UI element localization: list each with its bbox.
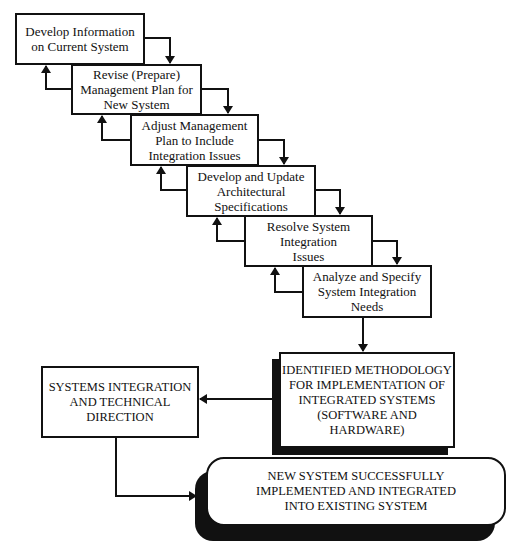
- arrow-step4-to-step5: [316, 190, 340, 214]
- feedback-step5-to-step4: [217, 218, 244, 241]
- outcome-label: NEW SYSTEM SUCCESSFULLY IMPLEMENTED AND …: [256, 469, 456, 514]
- arrow-step1-to-step2: [145, 38, 170, 63]
- step-label: Develop and Update Architectural Specifi…: [198, 169, 305, 214]
- arrow-step3-to-step4: [259, 140, 284, 164]
- outcome-box: NEW SYSTEM SUCCESSFULLY IMPLEMENTED AND …: [206, 457, 506, 526]
- step-adjust-management-plan: Adjust Management Plan to Include Integr…: [130, 114, 259, 166]
- direction-label: SYSTEMS INTEGRATION AND TECHNICAL DIRECT…: [49, 380, 192, 425]
- waterfall-diagram: Develop Information on Current System Re…: [0, 0, 522, 550]
- step-label: Develop Information on Current System: [25, 24, 134, 54]
- step-label: Analyze and Specify System Integration N…: [313, 269, 421, 314]
- feedback-step2-to-step1: [46, 66, 71, 89]
- step-analyze-integration-needs: Analyze and Specify System Integration N…: [302, 265, 432, 318]
- step-label: Adjust Management Plan to Include Integr…: [142, 118, 248, 163]
- step-develop-information: Develop Information on Current System: [15, 13, 145, 65]
- step-label: Revise (Prepare) Management Plan for New…: [80, 67, 193, 112]
- feedback-step4-to-step3: [161, 167, 186, 190]
- step-resolve-integration-issues: Resolve System Integration Issues: [244, 215, 373, 267]
- arrow-step2-to-step3: [202, 89, 228, 113]
- arrow-step5-to-step6: [373, 241, 397, 264]
- step-label: Resolve System Integration Issues: [267, 219, 350, 264]
- feedback-step3-to-step2: [102, 116, 130, 140]
- step-develop-architectural-specs: Develop and Update Architectural Specifi…: [186, 165, 316, 217]
- direction-box: SYSTEMS INTEGRATION AND TECHNICAL DIRECT…: [41, 366, 199, 438]
- methodology-label: IDENTIFIED METHODOLOGY FOR IMPLEMENTATIO…: [282, 363, 452, 438]
- feedback-step6-to-step5: [275, 268, 302, 292]
- arrow-direction-to-outcome: [116, 438, 196, 496]
- step-revise-management-plan: Revise (Prepare) Management Plan for New…: [71, 64, 202, 115]
- methodology-box: IDENTIFIED METHODOLOGY FOR IMPLEMENTATIO…: [279, 352, 455, 448]
